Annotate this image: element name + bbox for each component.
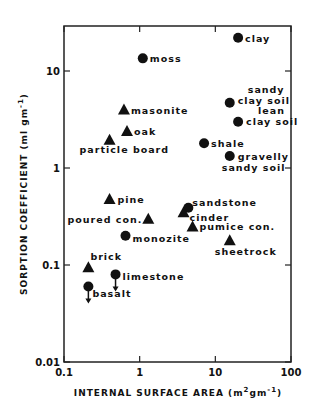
data-point-poured-con: poured con. [67,213,154,225]
circle-marker-icon [225,151,235,161]
data-point-oak: oak [121,125,156,137]
data-point-pumice-con: pumice con. [187,220,276,232]
data-point-clay: clay [233,33,270,44]
point-label: basalt [92,288,131,299]
circle-marker-icon [225,98,235,108]
x-tick-label: 100 [281,367,302,378]
data-point-pine: pine [104,193,145,205]
point-label: brick [90,251,122,262]
x-tick-label: 1 [136,367,143,378]
point-label: masonite [131,105,189,116]
point-label: sandstone [192,197,257,208]
data-point-basalt: basalt [83,282,131,304]
scatter-chart: 0.1110100 0.010.1110 claymossmasoniteoak… [0,0,316,416]
data-point-lean-clay-soil: leanclay soil [233,105,298,127]
y-tick-label: 1 [53,163,60,174]
point-label: pumice con. [200,221,276,232]
point-label: limestone [123,271,185,282]
data-points: claymossmasoniteoakparticle boardsandycl… [67,33,298,304]
circle-marker-icon [233,117,243,127]
point-label: oak [134,126,156,137]
data-point-brick: brick [82,251,122,272]
data-point-shale: shale [199,138,245,149]
data-point-sheetrock: sheetrock [215,234,277,257]
triangle-marker-icon [118,104,130,115]
circle-marker-icon [233,33,243,43]
point-label: sheetrock [215,246,277,257]
data-point-sandstone: sandstone [183,197,257,213]
x-tick-label: 10 [208,367,222,378]
y-axis-title: SORPTION COEFFICIENT (ml gm-1) [17,93,29,295]
y-tick-label: 0.01 [35,357,60,368]
x-axis-ticks: 0.1110100 [55,26,301,378]
y-tick-label: 0.1 [42,260,60,271]
circle-marker-icon [138,53,148,63]
circle-marker-icon [199,138,209,148]
point-label: poured con. [67,214,142,225]
plot-border [64,26,291,362]
data-point-monozite: monozite [121,231,190,244]
triangle-marker-icon [142,213,154,224]
point-label: monozite [133,233,191,244]
data-point-moss: moss [138,53,182,64]
triangle-marker-icon [82,261,94,272]
circle-marker-icon [121,231,131,241]
x-axis-title: INTERNAL SURFACE AREA (m2gm-1) [74,386,282,398]
data-point-masonite: masonite [118,104,189,116]
point-label: moss [150,53,182,64]
plot-frame [64,26,291,362]
triangle-marker-icon [121,125,133,136]
arrow-head-icon [85,299,91,304]
y-tick-label: 10 [46,66,60,77]
x-tick-label: 0.1 [55,367,73,378]
point-label: sandyclay soil [238,84,290,106]
triangle-marker-icon [224,234,236,245]
data-point-gravelly-sandy-soil: gravellysandy soil [222,151,289,173]
triangle-marker-icon [104,193,116,204]
point-label: particle board [80,144,170,155]
point-label: clay [245,33,270,44]
point-label: shale [211,138,245,149]
point-label: pine [118,194,145,205]
